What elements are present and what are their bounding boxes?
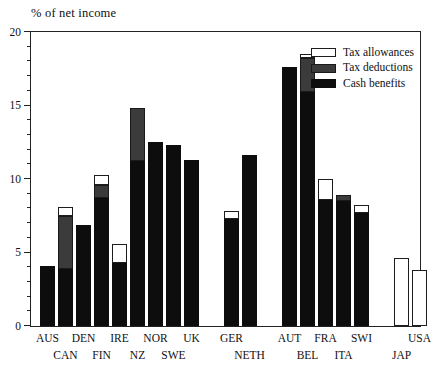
x-axis-label-usa: USA	[408, 333, 431, 345]
chart-title: % of net income	[31, 6, 116, 21]
bar-bel[interactable]	[300, 54, 315, 326]
x-axis-label-ger: GER	[220, 333, 243, 345]
legend-item[interactable]: Cash benefits	[311, 77, 414, 90]
y-axis-major-tick	[24, 325, 31, 326]
bar-fin[interactable]	[94, 175, 109, 326]
bar-segment-allow	[94, 175, 109, 185]
bar-segment-cash	[318, 200, 333, 326]
bar-swi[interactable]	[354, 205, 369, 326]
y-axis-tick-label: 5	[15, 247, 21, 259]
x-axis-label-nz: NZ	[130, 350, 145, 362]
bar-segment-cash	[166, 145, 181, 326]
x-axis-label-neth: NETH	[234, 350, 265, 362]
y-axis-major-tick	[24, 105, 31, 106]
bar-segment-cash	[40, 266, 55, 326]
x-axis-label-swi: SWI	[351, 333, 372, 345]
bar-segment-cash	[336, 201, 351, 326]
bar-segment-cash	[300, 92, 315, 326]
legend-label: Tax allowances	[343, 47, 414, 59]
bar-segment-cash	[76, 225, 91, 326]
y-axis-major-tick	[24, 31, 31, 32]
bar-segment-allow	[394, 258, 409, 326]
x-axis-label-ita: ITA	[334, 350, 352, 362]
legend-swatch-deduct	[311, 64, 336, 73]
bar-den[interactable]	[76, 225, 91, 326]
x-axis-label-aus: AUS	[36, 333, 59, 345]
bar-segment-cash	[184, 160, 199, 326]
chart-legend: Tax allowancesTax deductionsCash benefit…	[311, 46, 414, 93]
bar-segment-cash	[282, 67, 297, 326]
bar-segment-deduct	[336, 195, 351, 201]
legend-label: Cash benefits	[343, 78, 405, 90]
bar-swe[interactable]	[166, 145, 181, 326]
bar-can[interactable]	[58, 207, 73, 326]
bar-aut[interactable]	[282, 67, 297, 326]
chart-container: % of net income 05101520 Tax allowancesT…	[0, 0, 436, 368]
bar-segment-cash	[112, 263, 127, 326]
bar-nor[interactable]	[148, 142, 163, 326]
x-axis-label-swe: SWE	[161, 350, 185, 362]
bar-segment-cash	[242, 155, 257, 326]
bar-segment-cash	[224, 219, 239, 326]
x-axis-label-can: CAN	[53, 350, 77, 362]
bar-ire[interactable]	[112, 244, 127, 326]
bar-ger[interactable]	[224, 211, 239, 326]
y-axis-tick-label: 0	[15, 320, 21, 332]
x-axis-label-bel: BEL	[297, 350, 319, 362]
bar-segment-allow	[412, 270, 427, 326]
legend-label: Tax deductions	[343, 62, 413, 74]
y-axis-tick-label: 10	[10, 173, 22, 185]
x-axis-label-ire: IRE	[110, 333, 129, 345]
legend-item[interactable]: Tax allowances	[311, 46, 414, 59]
bar-segment-allow	[354, 205, 369, 212]
bar-segment-cash	[148, 142, 163, 326]
x-axis-label-fin: FIN	[92, 350, 111, 362]
bar-neth[interactable]	[242, 155, 257, 326]
bar-segment-cash	[130, 161, 145, 326]
bar-nz[interactable]	[130, 108, 145, 326]
legend-item[interactable]: Tax deductions	[311, 62, 414, 75]
bar-segment-allow	[58, 207, 73, 216]
y-axis-major-tick	[24, 252, 31, 253]
bar-aus[interactable]	[40, 266, 55, 326]
bar-segment-allow	[224, 211, 239, 218]
bar-segment-deduct	[130, 108, 145, 161]
legend-swatch-allow	[311, 48, 336, 57]
bar-segment-deduct	[58, 216, 73, 269]
x-axis-label-aut: AUT	[278, 333, 302, 345]
x-axis-label-uk: UK	[183, 333, 200, 345]
y-axis-tick-label: 20	[10, 26, 22, 38]
bar-segment-allow	[318, 179, 333, 200]
y-axis-tick-label: 15	[10, 100, 22, 112]
legend-swatch-cash	[311, 79, 336, 88]
y-axis-major-tick	[24, 178, 31, 179]
bar-usa[interactable]	[412, 270, 427, 326]
bar-jap[interactable]	[394, 258, 409, 326]
x-axis-label-nor: NOR	[143, 333, 167, 345]
bar-segment-allow	[112, 244, 127, 263]
bar-segment-cash	[58, 269, 73, 326]
bar-fra[interactable]	[318, 179, 333, 326]
bar-segment-cash	[94, 198, 109, 326]
bar-segment-cash	[354, 213, 369, 326]
bar-segment-deduct	[94, 185, 109, 198]
x-axis-label-jap: JAP	[392, 350, 411, 362]
x-axis-label-fra: FRA	[314, 333, 336, 345]
bar-ita[interactable]	[336, 195, 351, 326]
bar-uk[interactable]	[184, 160, 199, 326]
x-axis-label-den: DEN	[72, 333, 96, 345]
